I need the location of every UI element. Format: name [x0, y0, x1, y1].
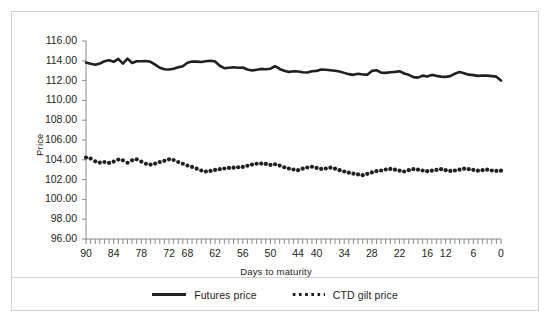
y-axis-tick-label: 110.00 [12, 93, 77, 105]
y-axis-tick-label: 100.00 [12, 192, 77, 204]
y-axis-tick-label: 114.00 [12, 54, 77, 66]
y-axis-tick-label: 96.00 [12, 232, 77, 244]
x-axis-tick-label: 90 [72, 247, 100, 259]
dotted-line-swatch-icon [291, 293, 325, 296]
x-axis-title: Days to maturity [12, 266, 540, 277]
legend-entry-ctd-gilt-price: CTD gilt price [291, 289, 398, 301]
legend-label-futures-price: Futures price [194, 289, 257, 301]
x-axis-tick-label: 50 [256, 247, 284, 259]
series-line-0 [86, 59, 501, 81]
y-axis-title: Price [34, 133, 45, 156]
chart-canvas [12, 12, 540, 277]
chart-legend: Futures price CTD gilt price [12, 278, 538, 311]
x-axis-tick-label: 40 [303, 247, 331, 259]
x-axis-tick-label: 34 [330, 247, 358, 259]
x-axis-tick-label: 56 [229, 247, 257, 259]
series-dots-1 [84, 156, 503, 178]
y-axis-tick-label: 102.00 [12, 173, 77, 185]
y-axis-tick-label: 98.00 [12, 212, 77, 224]
x-axis-tick-label: 62 [201, 247, 229, 259]
x-axis-tick-label: 22 [386, 247, 414, 259]
y-axis-tick-label: 108.00 [12, 113, 77, 125]
legend-entry-futures-price: Futures price [152, 289, 257, 301]
x-axis-tick-label: 28 [358, 247, 386, 259]
x-axis-tick-label: 78 [127, 247, 155, 259]
x-axis-tick-label: 6 [459, 247, 487, 259]
x-axis-tick-label: 84 [100, 247, 128, 259]
chart-figure: 116.00114.00112.00110.00108.00106.00104.… [11, 11, 539, 311]
solid-line-swatch-icon [152, 293, 186, 296]
y-axis-tick-label: 112.00 [12, 74, 77, 86]
x-axis-tick-label: 68 [173, 247, 201, 259]
legend-label-ctd-gilt-price: CTD gilt price [333, 289, 398, 301]
x-axis-tick-label: 12 [432, 247, 460, 259]
x-axis-tick-label: 0 [487, 247, 515, 259]
y-axis-tick-label: 116.00 [12, 34, 77, 46]
plot-area: 116.00114.00112.00110.00108.00106.00104.… [12, 12, 540, 277]
